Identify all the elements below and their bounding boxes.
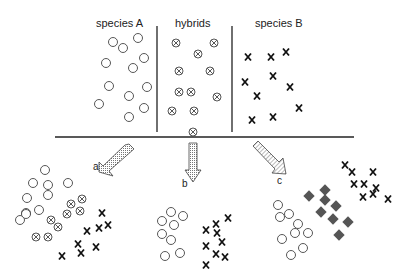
arrow-a: a <box>93 144 134 176</box>
hybrid-zone-diagram: species A hybrids species B a b c <box>0 0 411 279</box>
species-b-cluster <box>242 49 302 124</box>
species-a-cluster <box>95 34 152 122</box>
label-hybrids: hybrids <box>175 17 211 29</box>
arrow-b: b <box>182 143 201 189</box>
arrow-c-label: c <box>277 175 282 186</box>
arrow-b-label: b <box>182 178 188 189</box>
label-species-b: species B <box>255 17 303 29</box>
outcome-b <box>158 208 232 269</box>
arrow-c: c <box>253 141 286 186</box>
label-species-a: species A <box>96 17 144 29</box>
outcome-c <box>274 162 392 260</box>
arrow-a-label: a <box>93 161 99 172</box>
hybrids-cluster <box>168 39 221 136</box>
outcome-a <box>16 166 112 260</box>
